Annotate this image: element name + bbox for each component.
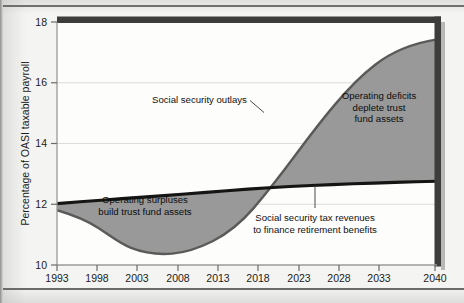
x-tick-marks (57, 265, 435, 271)
area-chart: 10 12 14 16 18 1993 1998 2003 2008 2013 … (0, 0, 464, 303)
annotation-deficits-line2: deplete trust (353, 102, 406, 113)
annotation-outlays-label: Social security outlays (152, 94, 247, 105)
frame-shadow-right (441, 22, 445, 270)
annotation-revenues-line1: Social security tax revenues (255, 212, 375, 223)
x-tick-label-2033: 2033 (367, 272, 391, 284)
annotation-deficits-line3: fund assets (354, 113, 403, 124)
y-tick-label-12: 12 (35, 198, 47, 210)
x-tick-label-1998: 1998 (85, 272, 109, 284)
frame-bar-top (57, 17, 441, 24)
annotation-surpluses-line1: Operating surpluses (102, 194, 188, 205)
y-tick-label-14: 14 (35, 137, 47, 149)
y-tick-marks (51, 22, 57, 265)
x-tick-label-2003: 2003 (125, 272, 149, 284)
x-tick-label-2040: 2040 (423, 272, 447, 284)
y-tick-label-16: 16 (35, 76, 47, 88)
y-axis-title: Percentage of OASI taxable payroll (19, 61, 31, 225)
x-tick-label-2023: 2023 (287, 272, 311, 284)
x-tick-label-2018: 2018 (246, 272, 270, 284)
x-tick-label-2013: 2013 (206, 272, 230, 284)
x-tick-label-1993: 1993 (45, 272, 69, 284)
x-tick-label-2008: 2008 (166, 272, 190, 284)
chart-figure: 10 12 14 16 18 1993 1998 2003 2008 2013 … (0, 0, 464, 303)
x-tick-label-2028: 2028 (327, 272, 351, 284)
y-tick-label-18: 18 (35, 16, 47, 28)
annotation-deficits-line1: Operating deficits (342, 90, 417, 101)
y-tick-label-10: 10 (35, 259, 47, 271)
annotation-surpluses-line2: build trust fund assets (98, 206, 192, 217)
frame-bar-right (435, 17, 442, 267)
annotation-revenues-line2: to finance retirement benefits (253, 224, 377, 235)
